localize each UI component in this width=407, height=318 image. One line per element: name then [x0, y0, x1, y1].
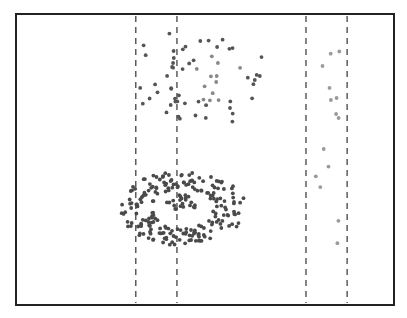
upper-radial-cluster-point [210, 54, 214, 58]
ring-cluster-point [219, 226, 223, 230]
upper-radial-cluster-point [238, 66, 242, 70]
upper-radial-cluster-point [172, 56, 176, 60]
upper-radial-cluster-point [165, 74, 169, 78]
upper-radial-cluster-point [171, 66, 175, 70]
ring-cluster-point [149, 186, 153, 190]
ring-cluster-point [200, 189, 204, 193]
ring-cluster-point [197, 176, 201, 180]
ring-cluster-point [222, 213, 226, 217]
ring-cluster-point [148, 182, 152, 186]
ring-cluster-point [156, 218, 160, 222]
ring-core-point [172, 204, 176, 208]
ring-cluster-point [136, 205, 140, 209]
ring-cluster-point [129, 189, 133, 193]
ring-cluster-point [138, 233, 142, 237]
ring-cluster-point [184, 232, 188, 236]
upper-radial-cluster-point [215, 74, 219, 78]
ring-cluster-point [188, 179, 192, 183]
ring-cluster-point [163, 183, 167, 187]
upper-radial-cluster-point [187, 62, 191, 66]
ring-cluster-point [139, 223, 143, 227]
ring-cluster-point [242, 196, 246, 200]
ring-cluster-point [158, 231, 162, 235]
ring-cluster-point [209, 175, 213, 179]
upper-left-scatter-point [142, 43, 146, 47]
ring-core-point [171, 199, 175, 203]
ring-cluster-point [231, 191, 235, 195]
ring-cluster-point [158, 227, 162, 231]
ring-core-point [192, 205, 196, 209]
upper-radial-cluster-point [194, 114, 198, 118]
right-band-sparse-point [327, 165, 331, 169]
ring-cluster-point [237, 211, 241, 215]
upper-left-scatter-point [148, 97, 152, 101]
upper-left-scatter-point [181, 47, 185, 51]
ring-cluster-point [214, 215, 218, 219]
ring-cluster-point [197, 233, 201, 237]
ring-cluster-point [180, 173, 184, 177]
upper-left-scatter-point [156, 90, 160, 94]
upper-left-scatter-point [184, 45, 188, 49]
upper-radial-cluster-point [231, 112, 235, 116]
ring-cluster-point [155, 186, 159, 190]
upper-left-scatter-point [169, 103, 173, 107]
ring-cluster-point [179, 228, 183, 232]
ring-cluster-point [237, 221, 241, 225]
ring-cluster-point [170, 240, 174, 244]
upper-radial-cluster-point [211, 91, 215, 95]
ring-cluster-point [231, 184, 235, 188]
ring-cluster-point [184, 227, 188, 231]
ring-cluster-point [142, 232, 146, 236]
ring-cluster-point [141, 218, 145, 222]
ring-cluster-point [162, 231, 166, 235]
ring-cluster-point [167, 189, 171, 193]
ring-cluster-point [192, 181, 196, 185]
upper-radial-cluster-point [231, 120, 235, 124]
ring-cluster-point [232, 210, 236, 214]
ring-cluster-point [156, 192, 160, 196]
ring-cluster-point [152, 220, 156, 224]
ring-cluster-point [172, 234, 176, 238]
upper-left-scatter-point [178, 117, 182, 121]
ring-cluster-point [196, 189, 200, 193]
ring-core-point [179, 204, 183, 208]
ring-cluster-point [142, 194, 146, 198]
right-band-sparse-point [321, 64, 325, 68]
ring-cluster-point [226, 214, 230, 218]
upper-left-scatter-point [172, 49, 176, 53]
ring-cluster-point [211, 183, 215, 187]
ring-cluster-point [207, 219, 211, 223]
upper-left-scatter-point [144, 53, 148, 57]
ring-core-point [187, 195, 191, 199]
ring-cluster-point [219, 204, 223, 208]
ring-cluster-point [152, 174, 156, 178]
ring-cluster-point [129, 206, 133, 210]
ring-cluster-point [133, 187, 137, 191]
ring-cluster-point [176, 185, 180, 189]
data-points [120, 32, 341, 247]
ring-cluster-point [202, 226, 206, 230]
right-band-sparse-point [337, 50, 341, 54]
upper-radial-cluster-point [228, 106, 232, 110]
partition-lines [136, 16, 347, 303]
ring-cluster-point [230, 222, 234, 226]
ring-cluster-point [129, 224, 133, 228]
upper-radial-cluster-point [216, 61, 220, 65]
upper-radial-cluster-point [214, 80, 218, 84]
ring-cluster-point [161, 241, 165, 245]
ring-cluster-point [158, 178, 162, 182]
right-band-sparse-point [328, 86, 332, 90]
upper-radial-cluster-point [250, 96, 254, 100]
ring-cluster-point [163, 225, 167, 229]
ring-cluster-point [135, 212, 139, 216]
ring-cluster-point [232, 200, 236, 204]
ring-cluster-point [164, 237, 168, 241]
ring-cluster-point [189, 228, 193, 232]
ring-cluster-point [193, 228, 197, 232]
upper-radial-cluster-point [202, 98, 206, 102]
upper-radial-cluster-point [253, 78, 257, 82]
ring-cluster-point [238, 201, 242, 205]
upper-radial-cluster-point [217, 98, 221, 102]
upper-radial-cluster-point [195, 67, 199, 71]
ring-cluster-point [188, 233, 192, 237]
